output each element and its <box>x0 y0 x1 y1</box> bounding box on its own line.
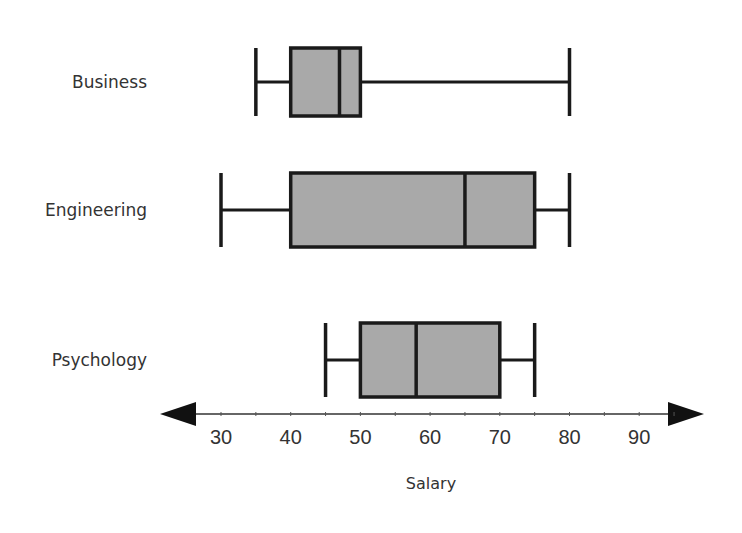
axis-arrow-right-icon <box>668 402 704 426</box>
box-engineering <box>291 173 535 247</box>
box-psychology <box>360 323 499 397</box>
axis-arrow-left-icon <box>160 402 196 426</box>
x-tick-label: 40 <box>280 426 302 448</box>
x-tick-label: 30 <box>210 426 232 448</box>
x-tick-label: 80 <box>558 426 580 448</box>
category-label-business: Business <box>72 72 147 92</box>
x-axis-title: Salary <box>406 474 456 493</box>
category-label-psychology: Psychology <box>52 350 147 370</box>
x-tick-label: 60 <box>419 426 441 448</box>
category-label-engineering: Engineering <box>45 200 147 220</box>
x-tick-label: 90 <box>628 426 650 448</box>
x-tick-label: 50 <box>349 426 371 448</box>
salary-boxplot-chart: BusinessEngineeringPsychology30405060708… <box>0 0 742 533</box>
x-tick-label: 70 <box>489 426 511 448</box>
box-business <box>291 48 361 116</box>
